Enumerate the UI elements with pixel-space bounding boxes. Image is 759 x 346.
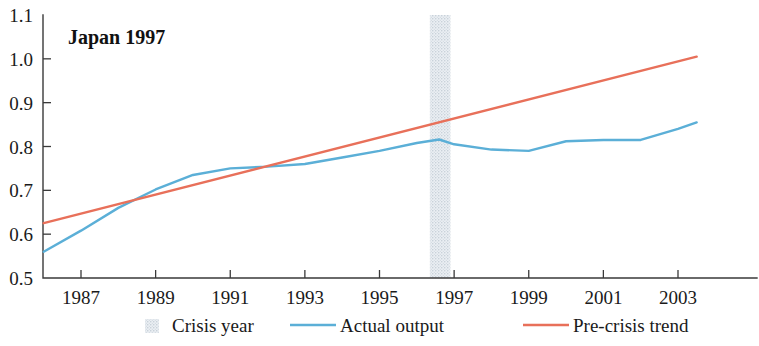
y-tick-label: 1.1 [9, 5, 33, 26]
y-axis-ticks: 1.11.00.90.80.70.60.5 [9, 5, 51, 289]
x-tick-label: 1989 [137, 287, 175, 308]
legend-label-actual-output: Actual output [340, 315, 445, 336]
x-tick-label: 1993 [286, 287, 324, 308]
y-tick-label: 0.5 [9, 268, 33, 289]
y-tick-label: 1.0 [9, 49, 33, 70]
line-chart: 1.11.00.90.80.70.60.5 198719891991199319… [0, 0, 759, 346]
x-axis-ticks: 198719891991199319951997199920012003 [62, 270, 697, 308]
chart-figure: 1.11.00.90.80.70.60.5 198719891991199319… [0, 0, 759, 346]
legend-label-pre-crisis-trend: Pre-crisis trend [573, 315, 689, 336]
x-tick-label: 2001 [584, 287, 622, 308]
x-tick-label: 1991 [211, 287, 249, 308]
series-line-actual-output [44, 122, 697, 251]
y-tick-label: 0.8 [9, 137, 33, 158]
x-tick-label: 1987 [62, 287, 100, 308]
y-tick-label: 0.7 [9, 180, 33, 201]
x-tick-label: 1999 [510, 287, 548, 308]
y-tick-label: 0.6 [9, 224, 33, 245]
crisis-year-band [430, 15, 451, 278]
legend-swatch-crisis-year [145, 319, 159, 333]
chart-series [44, 57, 697, 252]
x-tick-label: 2003 [659, 287, 697, 308]
x-tick-label: 1997 [435, 287, 473, 308]
chart-title: Japan 1997 [68, 26, 165, 49]
y-tick-label: 0.9 [9, 93, 33, 114]
chart-legend: Crisis yearActual outputPre-crisis trend [145, 315, 689, 336]
legend-label-crisis-year: Crisis year [172, 315, 254, 336]
x-tick-label: 1995 [361, 287, 399, 308]
